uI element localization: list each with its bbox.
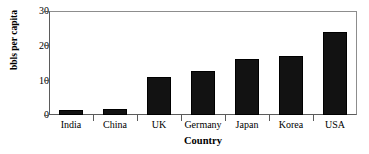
y-tick-label-20: 20 (27, 41, 49, 51)
x-axis-title: Country (49, 134, 357, 148)
bar-korea (279, 56, 303, 115)
x-tick-label-china: China (93, 118, 137, 132)
bar-uk (147, 77, 171, 115)
x-tick-label-korea: Korea (269, 118, 313, 132)
x-tick-label-uk: UK (137, 118, 181, 132)
bar-india (59, 110, 83, 115)
y-tick-label-10: 10 (27, 76, 49, 86)
bar-germany (191, 71, 215, 115)
bar-chart: bbls per capita 30 20 10 0 India China U… (0, 0, 369, 154)
x-axis-labels: India China UK Germany Japan Korea USA (49, 118, 357, 134)
x-tick-label-japan: Japan (225, 118, 269, 132)
bar-china (103, 109, 127, 115)
y-axis: 30 20 10 0 (0, 0, 49, 154)
x-tick-label-india: India (49, 118, 93, 132)
bar-series (49, 11, 357, 115)
bar-usa (323, 32, 347, 115)
bar-japan (235, 59, 259, 116)
y-tick-mark-0 (44, 115, 49, 116)
x-tick-label-germany: Germany (181, 118, 225, 132)
x-tick-label-usa: USA (313, 118, 357, 132)
